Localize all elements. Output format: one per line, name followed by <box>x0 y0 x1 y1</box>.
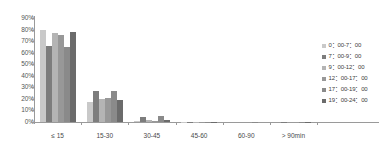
legend-item[interactable]: 0：00-7：00 <box>322 40 388 51</box>
x-axis-tick-mark <box>270 122 271 125</box>
y-axis-tick-label: 70% <box>0 36 34 46</box>
y-axis-tick-label: 90% <box>0 13 34 23</box>
legend-swatch-icon <box>322 55 326 59</box>
legend-item[interactable]: 17：00-19：00 <box>322 84 388 95</box>
legend-swatch-icon <box>322 88 326 92</box>
x-axis-tick-mark <box>223 122 224 125</box>
bar-group <box>87 18 123 122</box>
bar <box>70 32 76 122</box>
bar <box>164 120 170 122</box>
legend-item[interactable]: 7：00-9：00 <box>322 51 388 62</box>
legend-item-label: 0：00-7：00 <box>329 40 362 51</box>
bar-chart: 90%80%70%60%50%40%30%20%10%0% ≤ 1515-303… <box>0 0 389 150</box>
y-axis-tick-label: 20% <box>0 94 34 104</box>
y-axis-tick-label: 50% <box>0 59 34 69</box>
bar <box>117 100 123 122</box>
y-axis-tick-label: 30% <box>0 82 34 92</box>
legend-item-label: 17：00-19：00 <box>329 84 368 95</box>
x-axis-tick-mark <box>317 122 318 125</box>
y-axis-tick-label: 60% <box>0 48 34 58</box>
legend-item-label: 9：00-12：00 <box>329 62 365 73</box>
x-axis-tick-label: > 90min <box>263 131 323 140</box>
x-axis-tick-mark <box>176 122 177 125</box>
bar-group <box>228 18 264 122</box>
x-axis-tick-mark <box>81 122 82 125</box>
bar-group <box>181 18 217 122</box>
y-axis-tick-label: 40% <box>0 71 34 81</box>
plot-area <box>34 18 317 122</box>
bar-group <box>275 18 311 122</box>
legend-item-label: 7：00-9：00 <box>329 51 362 62</box>
chart-legend: 0：00-7：007：00-9：009：00-12：0012：00-17：001… <box>322 40 388 106</box>
legend-item[interactable]: 12：00-17：00 <box>322 73 388 84</box>
bar-group <box>40 18 76 122</box>
y-axis-tick-label: 80% <box>0 25 34 35</box>
legend-swatch-icon <box>322 44 326 48</box>
bar-group <box>134 18 170 122</box>
legend-item-label: 19：00-24：00 <box>329 95 368 106</box>
x-axis-line <box>34 122 379 123</box>
legend-item[interactable]: 9：00-12：00 <box>322 62 388 73</box>
legend-swatch-icon <box>322 66 326 70</box>
legend-swatch-icon <box>322 99 326 103</box>
y-axis-tick-label: 10% <box>0 105 34 115</box>
y-axis-tick-label: 0% <box>0 117 34 127</box>
x-axis-tick-mark <box>128 122 129 125</box>
legend-swatch-icon <box>322 77 326 81</box>
legend-item-label: 12：00-17：00 <box>329 73 368 84</box>
legend-item[interactable]: 19：00-24：00 <box>322 95 388 106</box>
